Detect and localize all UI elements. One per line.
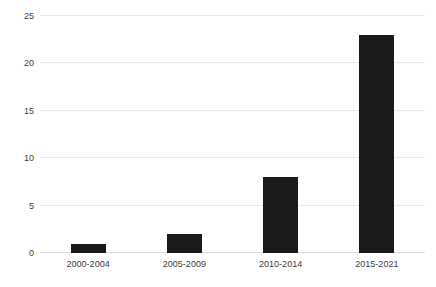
y-axis-tick-label: 5 (4, 201, 34, 210)
y-axis-tick-label: 10 (4, 154, 34, 163)
bar[interactable] (167, 234, 202, 253)
x-axis: 2000-20042005-20092010-20142015-2021 (40, 258, 425, 274)
bars-layer (40, 16, 425, 253)
y-axis: 0510152025 (0, 16, 34, 253)
bar-chart: 0510152025 2000-20042005-20092010-201420… (0, 0, 436, 287)
bar[interactable] (71, 244, 106, 253)
y-axis-tick-label: 20 (4, 59, 34, 68)
x-axis-tick-label: 2005-2009 (163, 258, 206, 270)
x-axis-tick-label: 2010-2014 (259, 258, 302, 270)
x-axis-tick-label: 2015-2021 (355, 258, 398, 270)
y-axis-tick-label: 15 (4, 106, 34, 115)
x-axis-tick-label: 2000-2004 (67, 258, 110, 270)
y-axis-tick-label: 25 (4, 12, 34, 21)
bar[interactable] (359, 35, 394, 253)
bar[interactable] (263, 177, 298, 253)
y-axis-tick-label: 0 (4, 249, 34, 258)
